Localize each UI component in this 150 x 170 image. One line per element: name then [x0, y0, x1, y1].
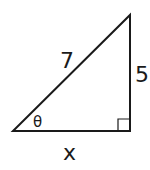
- hypotenuse-label: 7: [60, 48, 74, 73]
- opposite-side-label: 5: [135, 62, 149, 87]
- triangle-diagram: 7 5 θ x: [0, 0, 150, 170]
- triangle-shape: [13, 15, 130, 131]
- right-angle-marker: [118, 119, 130, 131]
- adjacent-side-label: x: [63, 140, 76, 165]
- angle-label: θ: [33, 113, 42, 131]
